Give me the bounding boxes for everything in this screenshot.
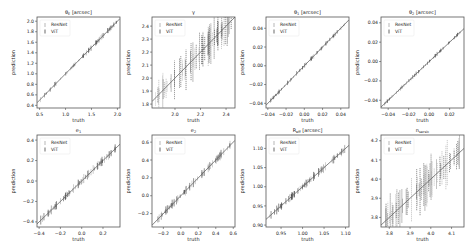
legend: ResNetViT	[40, 20, 70, 36]
y-tick-label: 0.00	[368, 59, 378, 64]
y-tick-label: 0.8	[27, 82, 34, 87]
y-tick-label: −0.04	[249, 101, 263, 106]
x-tick-label: −0.02	[279, 112, 293, 117]
x-tick-label: 2.0	[114, 112, 121, 117]
subplot-8: 3.83.94.04.13.83.94.04.14.2truthpredicti…	[354, 127, 464, 242]
y-tick-label: 0.04	[253, 26, 263, 31]
x-tick-label: 0.95	[276, 231, 286, 236]
x-axis-label: truth	[72, 117, 84, 123]
legend-label: ViT	[166, 29, 173, 34]
y-tick-label: 2.0	[27, 19, 34, 24]
x-tick-label: −0.04	[381, 112, 395, 117]
x-tick-label: −0.4	[34, 231, 45, 236]
subplot-title: e2	[191, 127, 196, 134]
y-tick-label: −0.2	[138, 211, 149, 216]
y-tick-label: 2.0	[142, 76, 149, 81]
y-tick-label: 0.00	[253, 63, 263, 68]
y-axis-label: prediction	[125, 50, 132, 75]
y-tick-label: 0.0	[142, 193, 149, 198]
legend-label: ViT	[51, 147, 58, 152]
x-tick-label: 0.4	[212, 231, 219, 236]
y-tick-label: 0.4	[27, 138, 34, 143]
x-tick-label: −0.2	[55, 231, 66, 236]
y-tick-label: 2.2	[142, 50, 149, 55]
legend-label: ViT	[166, 147, 173, 152]
legend-label: ResNet	[395, 22, 411, 27]
x-tick-label: 0.5	[36, 112, 43, 117]
subplot-title: θE [arcsec]	[65, 9, 92, 16]
y-axis-label: prediction	[239, 168, 246, 193]
x-tick-label: 0.6	[230, 231, 237, 236]
y-tick-label: 1.10	[253, 146, 263, 151]
y-tick-label: 1.0	[27, 71, 34, 76]
x-axis-label: truth	[416, 117, 428, 123]
y-tick-label: 4.0	[371, 177, 378, 182]
x-axis-label: truth	[301, 117, 313, 123]
x-tick-label: 4.1	[448, 231, 455, 236]
x-tick-label: 1.10	[340, 231, 350, 236]
plot-area	[266, 145, 349, 219]
legend: ResNetViT	[384, 20, 414, 36]
legend-label: ViT	[280, 147, 287, 152]
y-tick-label: 2.3	[142, 37, 149, 42]
legend-label: ResNet	[51, 140, 67, 145]
y-tick-label: 1.9	[142, 89, 149, 94]
y-axis-label: prediction	[125, 168, 132, 193]
identity-line	[381, 148, 464, 225]
x-tick-label: 3.8	[386, 231, 393, 236]
legend-label: ResNet	[280, 140, 296, 145]
y-tick-label: 4.1	[371, 158, 378, 163]
x-axis-label: truth	[301, 236, 313, 242]
y-axis-label: prediction	[239, 50, 246, 75]
legend: ResNetViT	[155, 20, 185, 36]
plot-area	[37, 144, 120, 224]
subplot-2: 2.02.22.41.81.92.02.12.22.32.4truthpredi…	[125, 7, 235, 123]
legend: ResNetViT	[269, 20, 299, 36]
plot-area	[381, 29, 464, 107]
y-tick-label: 0.02	[253, 45, 263, 50]
legend-label: ViT	[280, 29, 287, 34]
y-tick-label: 0.2	[27, 158, 34, 163]
y-tick-label: −0.4	[23, 219, 34, 224]
subplot-title: e1	[76, 127, 81, 134]
x-tick-label: 1.5	[88, 112, 95, 117]
x-tick-label: −0.04	[261, 112, 275, 117]
figure: 0.51.01.52.00.40.60.81.01.21.41.61.82.0t…	[0, 0, 466, 246]
legend-label: ViT	[395, 29, 402, 34]
legend-label: ViT	[51, 29, 58, 34]
y-tick-label: 4.2	[371, 138, 378, 143]
x-tick-label: 2.4	[222, 112, 229, 117]
x-tick-label: 3.9	[406, 231, 413, 236]
x-axis-label: truth	[72, 236, 84, 242]
y-axis-label: prediction	[354, 50, 361, 75]
y-tick-label: 0.02	[368, 40, 378, 45]
identity-line	[381, 29, 464, 107]
legend-label: ResNet	[51, 22, 67, 27]
x-tick-label: 2.0	[171, 112, 178, 117]
legend: ResNetViT	[155, 138, 185, 154]
y-tick-label: 0.90	[253, 223, 263, 228]
y-tick-label: 1.6	[27, 40, 34, 45]
subplot-5: −0.4−0.20.00.2−0.4−0.20.00.20.4truthpred…	[10, 127, 120, 242]
identity-line	[266, 145, 349, 219]
y-tick-label: 0.0	[27, 179, 34, 184]
y-tick-label: 1.05	[253, 165, 263, 170]
x-tick-label: 0.0	[177, 231, 184, 236]
legend: ResNetViT	[40, 138, 70, 154]
y-tick-label: 1.00	[253, 184, 263, 189]
legend-label: ResNet	[395, 140, 411, 145]
y-tick-label: 1.4	[27, 50, 34, 55]
subplot-title: Reff [arcsec]	[293, 127, 323, 134]
legend-label: ResNet	[166, 22, 182, 27]
y-tick-label: 0.04	[368, 20, 378, 25]
y-axis-label: prediction	[10, 50, 17, 75]
subplot-title: γ	[192, 9, 195, 16]
y-tick-label: 3.9	[371, 196, 378, 201]
x-axis-label: truth	[187, 117, 199, 123]
y-axis-label: prediction	[10, 168, 17, 193]
x-tick-label: 0.2	[99, 231, 106, 236]
subplot-4: −0.04−0.020.000.02−0.04−0.020.000.020.04…	[354, 9, 464, 123]
x-tick-label: 0.04	[336, 112, 346, 117]
y-tick-label: 2.4	[142, 24, 149, 29]
x-tick-label: 1.0	[62, 112, 69, 117]
